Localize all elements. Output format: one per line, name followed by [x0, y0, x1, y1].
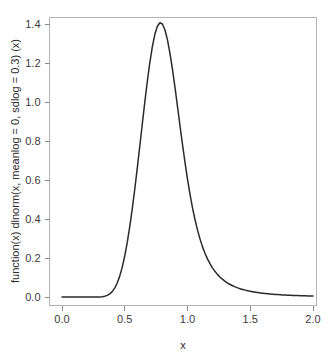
chart-background	[0, 0, 336, 361]
lognormal-density-chart: 0.00.51.01.52.0 0.00.20.40.60.81.01.21.4…	[0, 0, 336, 361]
y-tick-label: 0.4	[25, 213, 40, 225]
y-tick-label: 1.4	[25, 18, 40, 30]
x-tick-label: 1.0	[180, 313, 195, 325]
x-tick-label: 0.0	[54, 313, 69, 325]
y-axis-title: function(x) dlnorm(x, meanlog = 0, sdlog…	[9, 39, 21, 283]
chart-plot-panel: 0.00.51.01.52.0 0.00.20.40.60.81.01.21.4…	[0, 0, 336, 361]
y-tick-label: 0.6	[25, 174, 40, 186]
x-tick-label: 1.5	[243, 313, 258, 325]
x-tick-label: 2.0	[305, 313, 320, 325]
x-tick-label: 0.5	[117, 313, 132, 325]
y-tick-label: 0.8	[25, 135, 40, 147]
y-tick-label: 0.0	[25, 291, 40, 303]
y-tick-label: 0.2	[25, 252, 40, 264]
x-axis-title: x	[180, 339, 186, 351]
y-tick-label: 1.2	[25, 57, 40, 69]
y-tick-label: 1.0	[25, 96, 40, 108]
